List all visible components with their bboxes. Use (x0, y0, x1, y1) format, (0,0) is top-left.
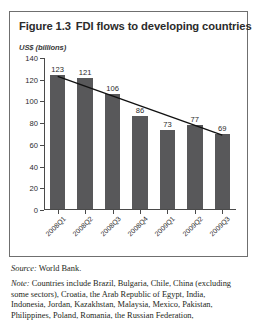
chart-plot-area: 0204060801001201401232008Q11212008Q21062… (44, 58, 236, 210)
x-axis-category-label: 2008Q2 (68, 215, 94, 241)
y-axis-tick-label: 80 (12, 119, 38, 128)
y-axis-tick-label: 60 (12, 140, 38, 149)
y-axis-tick-label: 100 (12, 97, 38, 106)
x-axis-tick (222, 210, 223, 214)
x-axis-category-label: 2009Q3 (205, 215, 231, 241)
note-line: some sectors), Croatia, the Arab Republi… (11, 290, 251, 301)
x-axis-tick (113, 210, 114, 214)
y-axis-tick-label: 140 (12, 54, 38, 63)
source-label: Source: (11, 264, 37, 273)
x-axis-category-label: 2009Q2 (178, 215, 204, 241)
x-axis-category-label: 2008Q3 (95, 215, 121, 241)
figure-box: Figure 1.3FDI flows to developing countr… (9, 11, 248, 257)
figure-title-text: FDI flows to developing countries (76, 20, 252, 32)
y-axis-tick-label: 40 (12, 162, 38, 171)
x-axis-tick (58, 210, 59, 214)
note-line: Indonesia, Jordan, Kazakhstan, Malaysia,… (11, 300, 251, 311)
figure-number: Figure 1.3 (19, 20, 71, 32)
note-line: Philippines, Poland, Romania, the Russia… (11, 311, 251, 321)
y-axis-tick-label: 120 (12, 75, 38, 84)
x-axis-tick (195, 210, 196, 214)
source-line: Source: World Bank. (11, 264, 249, 273)
y-axis-tick-label: 20 (12, 184, 38, 193)
x-axis-category-label: 2008Q4 (123, 215, 149, 241)
y-axis-unit-label: US$ (billions) (19, 43, 66, 52)
x-axis-category-label: 2008Q1 (41, 215, 67, 241)
x-axis-tick (85, 210, 86, 214)
y-axis-tick-label: 0 (12, 206, 38, 215)
x-axis-tick (167, 210, 168, 214)
x-axis-category-label: 2009Q1 (150, 215, 176, 241)
y-axis-tick (40, 210, 44, 211)
figure-title: Figure 1.3FDI flows to developing countr… (19, 20, 243, 32)
note-block: Note: Countries include Brazil, Bulgaria… (11, 279, 251, 321)
note-line: Note: Countries include Brazil, Bulgaria… (11, 279, 251, 290)
x-axis-tick (140, 210, 141, 214)
source-text: World Bank. (39, 264, 82, 273)
chart-plot-inner: 0204060801001201401232008Q11212008Q21062… (44, 58, 236, 210)
note-label: Note: (11, 279, 30, 288)
note-line-text: Countries include Brazil, Bulgaria, Chil… (32, 279, 231, 288)
trend-line (44, 58, 236, 210)
